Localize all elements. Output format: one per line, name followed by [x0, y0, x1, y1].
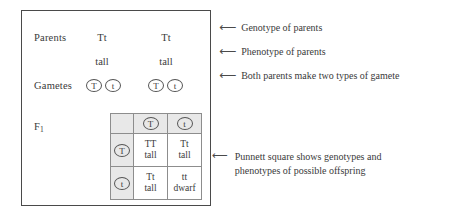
diagram-panel: Parents Tt Tt tall tall Gametes T t T t …: [21, 10, 211, 206]
cell-content-r2c1: Tt tall: [134, 172, 167, 194]
left-arrow-icon: ⟵: [219, 69, 236, 81]
row-header-circle-1: T: [111, 144, 133, 157]
allele-circle-row-2: t: [114, 177, 130, 190]
allele-circle-col-2: t: [177, 117, 193, 130]
allele-circle-row-1: T: [114, 144, 130, 157]
parent-b-phenotype: tall: [147, 56, 185, 67]
annotation-punnett: ⟵ Punnett square shows genotypes and phe…: [212, 150, 381, 178]
f1-row-label: F1: [34, 121, 44, 132]
annotation-genotype-text: Genotype of parents: [241, 21, 322, 34]
gamete-circle-parent-a-2: t: [105, 79, 121, 92]
cell-genotype-r1c2: Tt: [168, 139, 201, 150]
parents-row-label: Parents: [34, 32, 66, 43]
cell-phenotype-r1c1: tall: [134, 150, 167, 161]
column-header-circle-1: T: [134, 117, 167, 130]
cell-genotype-r1c1: TT: [134, 139, 167, 150]
annotation-punnett-line-2: phenotypes of possible offspring: [235, 165, 366, 176]
punnett-cell-r1c2: Tt tall: [168, 134, 202, 167]
cell-phenotype-r2c2: dwarf: [168, 183, 201, 194]
punnett-row-header-2: t: [111, 167, 134, 200]
cell-genotype-r2c1: Tt: [134, 172, 167, 183]
parent-b-genotype: Tt: [147, 32, 185, 43]
gamete-group-parent-a: T t: [86, 79, 121, 92]
gamete-circle-parent-a-1: T: [86, 79, 102, 92]
cell-phenotype-r2c1: tall: [134, 183, 167, 194]
f1-label-subscript: 1: [40, 125, 44, 134]
allele-circle-col-1: T: [143, 117, 159, 130]
annotation-punnett-line-1: Punnett square shows genotypes and: [235, 151, 382, 162]
annotation-phenotype-text: Phenotype of parents: [241, 45, 325, 58]
cell-genotype-r2c2: tt: [168, 172, 201, 183]
column-header-circle-2: t: [168, 117, 201, 130]
punnett-header-row: T t: [111, 114, 202, 134]
cell-content-r1c1: TT tall: [134, 139, 167, 161]
gametes-row-label: Gametes: [34, 80, 72, 91]
punnett-cell-r2c1: Tt tall: [134, 167, 168, 200]
cell-phenotype-r1c2: tall: [168, 150, 201, 161]
punnett-corner-cell: [111, 114, 134, 134]
punnett-row-1: T TT tall Tt tall: [111, 134, 202, 167]
annotation-genotype: ⟵ Genotype of parents: [219, 21, 322, 34]
annotation-punnett-text: Punnett square shows genotypes and pheno…: [235, 150, 382, 178]
left-arrow-icon: ⟵: [219, 45, 236, 57]
punnett-row-2: t Tt tall tt dwarf: [111, 167, 202, 200]
punnett-cell-r2c2: tt dwarf: [168, 167, 202, 200]
left-arrow-icon: ⟵: [212, 150, 228, 162]
parent-a-genotype: Tt: [83, 32, 121, 43]
punnett-cell-r1c1: TT tall: [134, 134, 168, 167]
punnett-row-header-1: T: [111, 134, 134, 167]
parent-a-phenotype: tall: [83, 56, 121, 67]
cell-content-r1c2: Tt tall: [168, 139, 201, 161]
punnett-square: T t T TT tall: [110, 113, 202, 200]
left-arrow-icon: ⟵: [219, 21, 236, 33]
annotation-gametes-text: Both parents make two types of gamete: [241, 69, 399, 82]
row-header-circle-2: t: [111, 177, 133, 190]
punnett-column-header-2: t: [168, 114, 202, 134]
gamete-group-parent-b: T t: [148, 79, 183, 92]
annotation-gametes: ⟵ Both parents make two types of gamete: [219, 69, 400, 82]
annotation-phenotype: ⟵ Phenotype of parents: [219, 45, 326, 58]
gamete-circle-parent-b-1: T: [148, 79, 164, 92]
gamete-circle-parent-b-2: t: [167, 79, 183, 92]
cell-content-r2c2: tt dwarf: [168, 172, 201, 194]
punnett-column-header-1: T: [134, 114, 168, 134]
